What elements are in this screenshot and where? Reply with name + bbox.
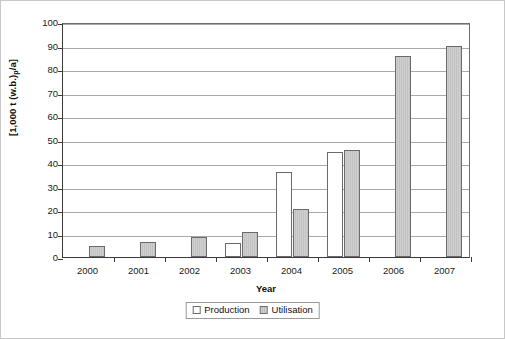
legend-label-production: Production — [204, 305, 249, 315]
bar-utilisation-2005 — [344, 150, 360, 257]
x-tick-label-2001: 2001 — [128, 265, 149, 276]
y-tick-label-0: 0 — [22, 253, 58, 263]
x-axis-title: Year — [62, 283, 470, 294]
bar-utilisation-2003 — [242, 232, 258, 257]
x-tick-label-2004: 2004 — [281, 265, 302, 276]
legend-swatch-utilisation-icon — [260, 306, 268, 314]
y-tick-label-100: 100 — [22, 18, 58, 28]
x-tick-label-2007: 2007 — [434, 265, 455, 276]
y-tick-label-90: 90 — [22, 42, 58, 52]
bar-utilisation-2002 — [191, 237, 207, 257]
y-tick-mark-50 — [58, 142, 63, 143]
bar-utilisation-2007 — [446, 46, 462, 257]
y-tick-label-60: 60 — [22, 112, 58, 122]
y-tick-label-70: 70 — [22, 89, 58, 99]
legend-entry-utilisation[interactable]: Utilisation — [260, 305, 313, 315]
x-tick-mark-2007 — [471, 257, 472, 262]
x-tick-label-2002: 2002 — [179, 265, 200, 276]
x-tick-label-2003: 2003 — [230, 265, 251, 276]
gridline-y-100 — [63, 24, 469, 25]
y-tick-mark-10 — [58, 236, 63, 237]
y-tick-mark-30 — [58, 189, 63, 190]
bar-production-2003 — [225, 243, 241, 257]
y-axis-title: [1,000 t (w.b.)p/a] — [7, 0, 18, 198]
y-tick-mark-100 — [58, 24, 63, 25]
chart-legend: ProductionUtilisation — [185, 302, 320, 319]
bar-utilisation-2000 — [89, 246, 105, 257]
y-tick-label-80: 80 — [22, 65, 58, 75]
y-tick-mark-40 — [58, 165, 63, 166]
y-tick-mark-80 — [58, 71, 63, 72]
bar-utilisation-2006 — [395, 56, 411, 257]
y-tick-label-40: 40 — [22, 159, 58, 169]
x-tick-mark-2005 — [369, 257, 370, 262]
gridline-y-90 — [63, 48, 469, 49]
x-tick-label-2006: 2006 — [383, 265, 404, 276]
x-axis-tick-labels: 20002001200220032004200520062007 — [62, 265, 470, 279]
x-tick-mark-2000 — [114, 257, 115, 262]
bar-production-2004 — [276, 172, 292, 257]
x-tick-label-2000: 2000 — [77, 265, 98, 276]
legend-entry-production[interactable]: Production — [192, 305, 249, 315]
y-tick-label-20: 20 — [22, 206, 58, 216]
x-tick-mark-2004 — [318, 257, 319, 262]
bar-utilisation-2004 — [293, 209, 309, 257]
y-tick-mark-90 — [58, 48, 63, 49]
y-tick-label-10: 10 — [22, 230, 58, 240]
x-tick-mark-2003 — [267, 257, 268, 262]
y-tick-mark-70 — [58, 95, 63, 96]
legend-label-utilisation: Utilisation — [272, 305, 313, 315]
x-tick-mark-2006 — [420, 257, 421, 262]
chart-screenshot: [1,000 t (w.b.)p/a] 01020304050607080901… — [0, 0, 505, 339]
y-tick-label-30: 30 — [22, 183, 58, 193]
y-tick-label-50: 50 — [22, 136, 58, 146]
x-tick-label-2005: 2005 — [332, 265, 353, 276]
y-tick-mark-20 — [58, 212, 63, 213]
y-tick-mark-0 — [58, 259, 63, 260]
x-tick-mark-2001 — [165, 257, 166, 262]
plot-area — [62, 23, 470, 258]
y-tick-mark-60 — [58, 118, 63, 119]
y-axis-tick-labels: 0102030405060708090100 — [22, 23, 58, 258]
bar-utilisation-2001 — [140, 242, 156, 257]
y-axis-title-tail: /a] — [7, 59, 18, 70]
x-tick-mark-2002 — [216, 257, 217, 262]
y-axis-title-subscript: p — [11, 70, 20, 75]
y-axis-title-main: [1,000 t (w.b.) — [7, 75, 18, 136]
bar-production-2005 — [327, 152, 343, 257]
legend-swatch-production-icon — [192, 306, 200, 314]
